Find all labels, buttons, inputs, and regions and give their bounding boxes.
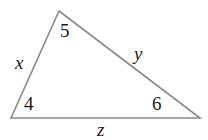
triangle-outline <box>11 11 200 118</box>
side-label-right: y <box>134 44 142 63</box>
triangle-figure: 5 4 6 x y z <box>0 0 208 140</box>
angle-label-top: 5 <box>60 21 70 40</box>
angle-label-bottom-right: 6 <box>152 94 162 113</box>
angle-label-bottom-left: 4 <box>24 94 34 113</box>
side-label-left: x <box>15 53 23 72</box>
triangle-shape <box>0 0 208 140</box>
side-label-bottom: z <box>97 120 104 139</box>
